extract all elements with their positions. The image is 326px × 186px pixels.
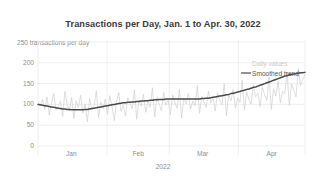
legend-item-daily-values[interactable]: Daily values <box>252 60 288 67</box>
y-tick-200: 200 <box>12 59 34 66</box>
gridlines <box>38 42 305 146</box>
x-gridlines <box>38 40 305 155</box>
x-axis-title: 2022 <box>0 163 326 170</box>
x-tick-feb: Feb <box>118 150 158 157</box>
chart-card: Transactions per Day, Jan. 1 to Apr. 30,… <box>0 0 326 186</box>
legend-item-smoothed-trend[interactable]: Smoothed trend <box>252 70 299 77</box>
y-tick-50: 50 <box>12 121 34 128</box>
y-tick-100: 100 <box>12 100 34 107</box>
y-tick-150: 150 <box>12 80 34 87</box>
x-tick-jan: Jan <box>51 150 91 157</box>
x-tick-mar: Mar <box>183 150 223 157</box>
y-tick-0: 0 <box>12 142 34 149</box>
x-tick-apr: Apr <box>252 150 292 157</box>
plot-area <box>0 0 326 186</box>
